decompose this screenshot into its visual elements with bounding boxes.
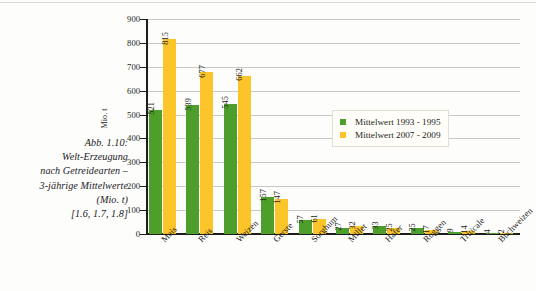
y-axis-tick-labels: 0100200300400500600700800900 <box>110 10 140 244</box>
bar-value-label: 521 <box>147 102 155 115</box>
bar-value-label: 815 <box>161 32 169 45</box>
chart-legend: Mittelwert 1993 - 1995 Mittelwert 2007 -… <box>332 110 449 147</box>
legend-item: Mittelwert 2007 - 2009 <box>340 128 440 141</box>
bar-group: 539677 <box>185 19 222 234</box>
y-axis-tick <box>140 210 146 211</box>
y-axis-tick <box>140 43 146 44</box>
bar-group: 5761 <box>298 19 335 234</box>
bar-group: 914 <box>447 19 484 234</box>
y-axis-tick-label: 300 <box>110 158 140 167</box>
y-axis-tick <box>140 115 146 116</box>
x-axis-category-labels: MaisReisWeizenGersteSorghumMilletHaferRo… <box>148 237 520 291</box>
bar-value-label: 57 <box>297 215 305 223</box>
bar[interactable]: 662 <box>238 76 251 234</box>
y-axis-tick <box>140 91 146 92</box>
y-axis-tick <box>140 19 146 20</box>
y-axis-tick-label: 100 <box>110 206 140 215</box>
y-axis-tick-label: 700 <box>110 63 140 72</box>
bar[interactable]: 545 <box>224 104 237 234</box>
y-axis-title: Mio. t <box>100 108 109 128</box>
y-axis-tick-label: 0 <box>110 230 140 239</box>
bar-value-label: 61 <box>311 214 319 222</box>
bar-value-label: 4 <box>484 230 492 234</box>
bar-group: 521815 <box>148 19 185 234</box>
y-axis-tick <box>140 186 146 187</box>
bar[interactable]: 677 <box>200 72 213 234</box>
bar-value-label: 9 <box>446 229 454 233</box>
y-axis-tick <box>140 67 146 68</box>
bar-chart: 0100200300400500600700800900 Mio. t 5218… <box>136 10 516 291</box>
bar-value-label: 147 <box>273 192 281 205</box>
bar-value-label: 33 <box>371 221 379 229</box>
bar-value-label: 25 <box>409 223 417 231</box>
y-axis-tick <box>140 162 146 163</box>
legend-item-label: Mittelwert 2007 - 2009 <box>355 130 440 140</box>
bar-group: 42 <box>485 19 522 234</box>
y-axis-tick <box>140 138 146 139</box>
bar-value-label: 545 <box>222 97 230 110</box>
bar-value-label: 677 <box>198 65 206 78</box>
bar-value-label: 157 <box>259 189 267 202</box>
page-top-rule <box>0 2 536 3</box>
bar-group: 545662 <box>223 19 260 234</box>
legend-item: Mittelwert 1993 - 1995 <box>340 115 440 128</box>
y-axis-tick-label: 800 <box>110 39 140 48</box>
bar[interactable]: 521 <box>149 110 162 234</box>
bar-value-label: 539 <box>184 98 192 111</box>
legend-item-label: Mittelwert 1993 - 1995 <box>355 117 440 127</box>
y-axis-tick-label: 600 <box>110 87 140 96</box>
legend-swatch-icon <box>340 132 346 138</box>
y-axis-tick-label: 400 <box>110 134 140 143</box>
bar-group: 157147 <box>260 19 297 234</box>
bar-value-label: 662 <box>236 69 244 82</box>
y-axis-tick-label: 900 <box>110 15 140 24</box>
y-axis-tick <box>140 234 146 235</box>
bar[interactable]: 539 <box>186 105 199 234</box>
y-axis-tick-label: 200 <box>110 182 140 191</box>
y-axis-tick-label: 500 <box>110 111 140 120</box>
bar[interactable]: 815 <box>163 39 176 234</box>
legend-swatch-icon <box>340 119 346 125</box>
figure-page: Abb. 1.10: Welt-Erzeugung nach Getreidea… <box>0 0 536 291</box>
